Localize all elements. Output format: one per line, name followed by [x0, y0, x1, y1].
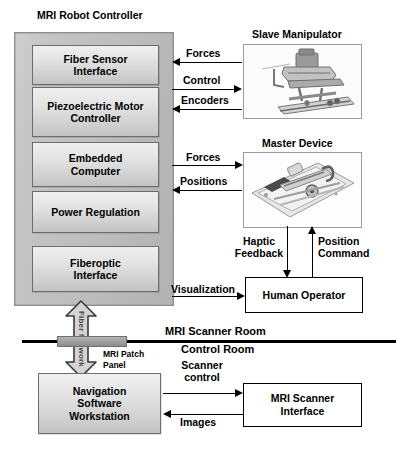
arrow-forces-slave-line: [180, 62, 242, 63]
module-embedded-computer[interactable]: Embedded Computer: [32, 142, 159, 187]
arrow-forces-slave-head: [172, 58, 180, 66]
diagram-canvas: MRI Robot Controller Slave Manipulator M…: [0, 0, 396, 451]
arrow-images-line: [171, 414, 243, 415]
arrow-forces-master-head: [235, 161, 243, 169]
arrow-label-images: Images: [180, 417, 216, 429]
arrow-control-head: [234, 85, 242, 93]
controller-title: MRI Robot Controller: [37, 10, 143, 22]
arrow-position-command-line: [312, 228, 313, 278]
arrow-positions-head: [172, 186, 180, 194]
arrow-visualization-head: [237, 292, 245, 300]
arrow-label-haptic-feedback: Haptic Feedback: [232, 236, 286, 260]
mri-patch-panel-bar: [57, 336, 127, 347]
arrow-label-visualization: Visualization: [171, 284, 235, 296]
navigation-software-workstation-box[interactable]: Navigation Software Workstation: [38, 373, 161, 434]
human-operator-box[interactable]: Human Operator: [245, 277, 363, 313]
module-fiber-sensor-interface[interactable]: Fiber Sensor Interface: [32, 45, 159, 85]
arrow-scanner-control-head: [235, 389, 243, 397]
room-label-lower: Control Room: [181, 343, 254, 355]
arrow-label-encoders: Encoders: [181, 95, 229, 107]
master-title: Master Device: [262, 138, 333, 150]
mri-scanner-interface-box[interactable]: MRI Scanner Interface: [243, 383, 362, 427]
arrow-label-control: Control: [183, 75, 220, 87]
arrow-label-scanner-control: Scanner control: [171, 360, 233, 384]
mri-patch-panel-label: MRI Patch Panel: [103, 349, 144, 372]
arrow-visualization-line: [172, 296, 237, 297]
master-device-image: [243, 152, 362, 228]
module-power-regulation[interactable]: Power Regulation: [32, 191, 159, 233]
arrow-label-forces-master: Forces: [186, 152, 220, 164]
master-device-photo: [244, 153, 361, 227]
room-label-upper: MRI Scanner Room: [165, 325, 266, 337]
module-piezoelectric-motor-controller[interactable]: Piezoelectric Motor Controller: [32, 87, 159, 137]
slave-manipulator-image: [243, 44, 362, 119]
arrow-label-position-command: Position Command: [318, 236, 388, 260]
arrow-haptic-feedback-line: [287, 226, 288, 276]
arrow-encoders-head: [172, 105, 180, 113]
arrow-forces-master-line: [172, 165, 235, 166]
arrow-scanner-control-line: [163, 393, 235, 394]
arrow-control-line: [172, 89, 234, 90]
slave-title: Slave Manipulator: [252, 29, 342, 41]
arrow-encoders-line: [180, 109, 242, 110]
slave-manipulator-photo: [244, 45, 361, 118]
arrow-positions-line: [180, 190, 242, 191]
arrow-label-positions: Positions: [180, 176, 227, 188]
module-fiberoptic-interface[interactable]: Fiberoptic Interface: [32, 246, 159, 292]
arrow-images-head: [163, 410, 171, 418]
arrow-label-forces-slave: Forces: [186, 48, 220, 60]
arrow-position-command-head: [308, 226, 316, 234]
